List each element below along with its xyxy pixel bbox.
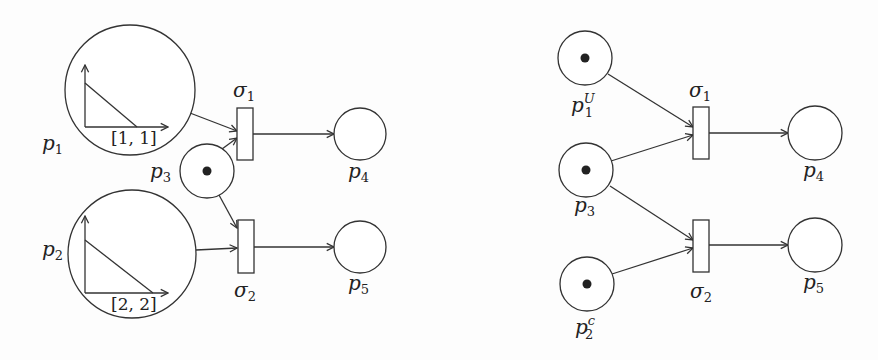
left-net: [1, 1]p1[2, 2]p2p3p4p5σ1σ2 — [42, 25, 386, 318]
place-label-p4-main: p — [803, 158, 816, 182]
transition-label-sigma2-sub: 2 — [248, 289, 256, 304]
place-label-p5: p5 — [803, 270, 824, 296]
place-label-p5-sub: 5 — [361, 282, 369, 297]
place-label-p2: p2 — [42, 237, 63, 263]
place-circle-p5 — [334, 221, 386, 273]
transition-sigma2: σ2 — [234, 220, 256, 304]
transition-rect-sigma1 — [693, 107, 709, 159]
place-label-p1U-sup: U — [584, 91, 596, 106]
place-circle-p4 — [788, 106, 842, 160]
place-label-p4-sub: 4 — [816, 169, 824, 184]
place-label-p1U: pU1 — [571, 91, 596, 120]
place-p2c: pc2 — [560, 257, 614, 342]
place-p4: p4 — [334, 108, 386, 185]
transition-rect-sigma2 — [238, 220, 254, 273]
token-icon — [583, 280, 592, 289]
place-label-p5-main: p — [803, 270, 816, 294]
place-p1U: pU1 — [558, 31, 612, 120]
place-label-p1U-main: p — [571, 93, 584, 117]
transition-label-sigma1: σ1 — [689, 78, 711, 104]
place-p3: p3 — [559, 143, 613, 219]
place-label-p4-sub: 4 — [361, 170, 369, 185]
place-label-p3-sub: 3 — [163, 170, 171, 185]
place-label-p3: p3 — [150, 159, 171, 185]
token-icon — [582, 166, 591, 175]
petri-net-svg: [1, 1]p1[2, 2]p2p3p4p5σ1σ2 pU1p3pc2p4p5σ… — [0, 0, 878, 360]
place-label-p3-main: p — [574, 193, 587, 217]
place-label-p2-main: p — [42, 237, 55, 261]
token-icon — [581, 54, 590, 63]
place-label-p3-main: p — [150, 159, 163, 183]
arc-p3-to-sigma1 — [611, 135, 693, 161]
place-label-p2c-sup: c — [588, 313, 596, 328]
transition-rect-sigma1 — [237, 108, 253, 160]
transition-sigma1: σ1 — [689, 78, 711, 159]
place-circle-p5 — [788, 218, 842, 272]
arc-p1U-to-sigma1 — [608, 74, 693, 127]
arc-p1-to-sigma1 — [190, 113, 237, 131]
transition-label-sigma1-sub: 1 — [703, 89, 711, 104]
transition-rect-sigma2 — [693, 220, 709, 272]
transition-label-sigma1-sub: 1 — [247, 89, 255, 104]
place-label-p1-main: p — [42, 131, 55, 155]
place-circle-p4 — [334, 108, 386, 160]
place-label-p5: p5 — [348, 271, 369, 297]
token-icon — [203, 167, 212, 176]
place-label-p1-sub: 1 — [55, 142, 63, 157]
place-p4: p4 — [788, 106, 842, 184]
arc-p2c-to-sigma2 — [612, 248, 693, 274]
place-label-p4-main: p — [348, 159, 361, 183]
place-label-p5-main: p — [348, 271, 361, 295]
right-net: pU1p3pc2p4p5σ1σ2 — [558, 31, 842, 342]
transition-label-sigma2: σ2 — [690, 279, 712, 305]
transition-sigma1: σ1 — [233, 78, 255, 160]
place-label-p2c-sub: 2 — [585, 327, 593, 342]
place-p1: [1, 1]p1 — [42, 25, 195, 157]
transition-label-sigma2-sub: 2 — [704, 290, 712, 305]
transition-sigma2: σ2 — [690, 220, 712, 305]
petri-net-figure: [1, 1]p1[2, 2]p2p3p4p5σ1σ2 pU1p3pc2p4p5σ… — [0, 0, 878, 360]
arc-p3-to-sigma1 — [222, 138, 237, 149]
place-label-p4: p4 — [803, 158, 824, 184]
interval-label: [1, 1] — [111, 128, 157, 148]
place-label-p2c: pc2 — [575, 313, 596, 342]
place-label-p2-sub: 2 — [55, 248, 63, 263]
arc-p3-to-sigma2 — [219, 195, 237, 228]
place-p3: p3 — [150, 144, 234, 198]
arc-p3-to-sigma2 — [610, 186, 693, 240]
transition-label-sigma2: σ2 — [234, 278, 256, 304]
arc-p2-to-sigma2 — [196, 248, 237, 250]
place-label-p5-sub: 5 — [816, 281, 824, 296]
place-p2: [2, 2]p2 — [42, 190, 196, 318]
place-label-p4: p4 — [348, 159, 369, 185]
place-p5: p5 — [788, 218, 842, 296]
transition-label-sigma1: σ1 — [233, 78, 255, 104]
place-label-p1: p1 — [42, 131, 63, 157]
place-label-p3-sub: 3 — [587, 204, 595, 219]
place-p5: p5 — [334, 221, 386, 297]
interval-label: [2, 2] — [111, 294, 157, 314]
place-label-p1U-sub: 1 — [585, 105, 593, 120]
